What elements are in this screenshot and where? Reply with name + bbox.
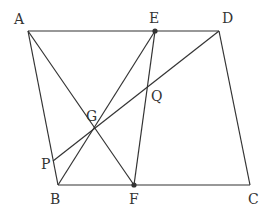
point-label-Q: Q: [151, 88, 162, 104]
segment-EB: [58, 31, 155, 185]
point-label-B: B: [50, 191, 60, 207]
segment-DP: [53, 31, 219, 161]
segments: [28, 31, 250, 185]
geometry-diagram: AEDBFCPGQ: [0, 0, 273, 216]
segment-DC: [219, 31, 250, 185]
point-dot-E: [152, 28, 157, 33]
point-label-D: D: [222, 10, 233, 26]
point-label-E: E: [149, 10, 159, 26]
point-dot-F: [131, 182, 136, 187]
point-label-F: F: [129, 191, 139, 207]
point-label-G: G: [86, 108, 97, 124]
point-labels: AEDBFCPGQ: [13, 10, 259, 207]
point-label-C: C: [248, 191, 259, 207]
point-label-P: P: [41, 156, 50, 172]
segment-EF: [134, 31, 155, 185]
diagram-canvas: AEDBFCPGQ: [0, 0, 273, 216]
point-label-A: A: [13, 11, 25, 27]
